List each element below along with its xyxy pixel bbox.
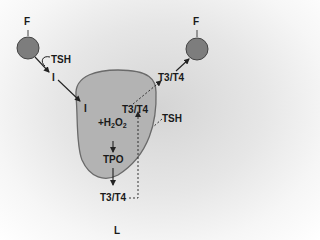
label-t3t4-bottom: T3/T4 (100, 193, 126, 203)
label-follicle-right: F (193, 17, 199, 27)
follicle-circle-left (17, 37, 39, 59)
follicle-circle-right (186, 38, 208, 60)
label-lumen: L (114, 226, 120, 236)
label-t3t4-outside: T3/T4 (158, 73, 184, 83)
label-h2o2: +H2O2 (98, 118, 127, 129)
label-follicle-left: F (24, 17, 30, 27)
arrow-circle-to-iodide (35, 57, 49, 72)
label-tpo: TPO (103, 155, 124, 165)
label-tsh-right: TSH (162, 114, 182, 124)
label-tsh-top: TSH (51, 55, 71, 65)
label-t3t4-inside: T3/T4 (122, 105, 148, 115)
label-iodide-outside: I (52, 73, 55, 83)
label-iodide-inside: I (84, 104, 87, 114)
tsh-curl-arrow (42, 57, 50, 66)
arrow-t3t4-to-follicle (176, 59, 189, 71)
